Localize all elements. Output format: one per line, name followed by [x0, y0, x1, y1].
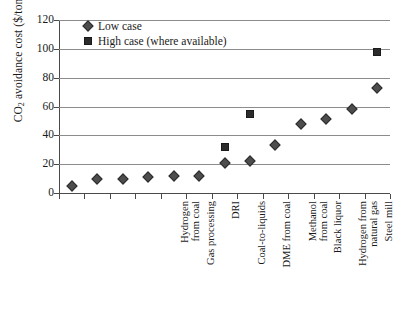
x-axis-tick-mark [365, 194, 366, 199]
x-axis-category-label: Steel mill [383, 201, 394, 309]
data-point-low [142, 171, 153, 182]
legend-item-high-case: High case (where available) [82, 34, 227, 48]
data-point-high [373, 48, 381, 56]
x-axis-tick-mark [339, 194, 340, 199]
data-point-low [295, 118, 306, 129]
x-axis-tick-mark [314, 194, 315, 199]
gridline [59, 78, 390, 79]
x-axis-tick-mark [186, 194, 187, 199]
x-axis-tick-mark [110, 194, 111, 199]
x-axis-category-label: Hydrogen from natural gas [357, 201, 379, 309]
data-point-low [193, 170, 204, 181]
y-axis-tick-label: 80 [20, 72, 54, 84]
square-marker-icon [82, 37, 94, 45]
legend-label-high-case: High case (where available) [98, 34, 227, 48]
y-axis-tick-label: 100 [20, 43, 54, 55]
x-axis-tick-mark [263, 194, 264, 199]
legend-label-low-case: Low case [98, 19, 142, 33]
x-axis-tick-mark [84, 194, 85, 199]
x-axis-tick-mark [390, 194, 391, 199]
gridline [59, 193, 390, 194]
y-axis-tick-label: 60 [20, 101, 54, 113]
x-axis-category-label: Methanol from coal [307, 201, 329, 309]
x-axis-category-label: Black liquor [332, 201, 343, 309]
co2-avoidance-cost-chart: CO2 avoidance cost ($/tonne) 02040608010… [0, 0, 395, 311]
x-axis-category-label: DRI [230, 201, 241, 309]
x-axis-category-label: Coal-to-liquids [256, 201, 267, 309]
x-axis-tick-mark [288, 194, 289, 199]
data-point-high [246, 110, 254, 118]
diamond-marker-icon [82, 22, 94, 30]
data-point-low [92, 173, 103, 184]
data-point-low [66, 180, 77, 191]
x-axis-tick-mark [161, 194, 162, 199]
x-axis-tick-mark [135, 194, 136, 199]
legend-item-low-case: Low case [82, 19, 227, 33]
x-axis-category-label: Gas processing [205, 201, 216, 309]
y-axis-tick-label: 0 [20, 187, 54, 199]
x-axis-category-label: DME from coal [281, 201, 292, 309]
data-point-low [270, 140, 281, 151]
data-point-low [372, 82, 383, 93]
x-axis-tick-mark [237, 194, 238, 199]
y-axis-tick-label: 40 [20, 129, 54, 141]
data-point-low [346, 104, 357, 115]
data-point-low [321, 114, 332, 125]
x-axis-tick-mark [212, 194, 213, 199]
data-point-low [117, 173, 128, 184]
gridline [59, 107, 390, 108]
y-axis-tick-label: 120 [20, 14, 54, 26]
data-point-high [221, 143, 229, 151]
y-axis-tick-label: 20 [20, 158, 54, 170]
chart-legend: Low case High case (where available) [82, 19, 227, 49]
data-point-low [219, 157, 230, 168]
gridline [59, 135, 390, 136]
data-point-low [168, 170, 179, 181]
data-point-low [244, 156, 255, 167]
x-axis-category-label: Hydrogen from coal [179, 201, 201, 309]
x-axis-tick-mark [59, 194, 60, 199]
